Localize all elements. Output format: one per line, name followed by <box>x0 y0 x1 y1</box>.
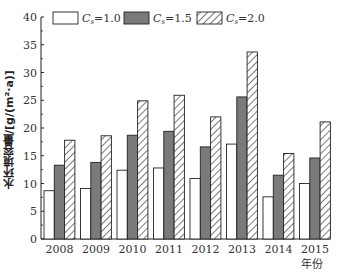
x-tick-label: 2014 <box>264 243 292 256</box>
y-tick-label: 10 <box>23 178 37 191</box>
bar-2014-1 <box>273 175 283 239</box>
bar-2011-0 <box>154 168 164 239</box>
x-tick-label: 2015 <box>301 243 329 256</box>
y-tick-label: 15 <box>23 150 37 163</box>
legend-label-1: Cs=1.5 <box>153 12 192 26</box>
bar-2012-0 <box>190 179 200 239</box>
legend-label-0: Cs=1.0 <box>82 12 121 26</box>
bars: 20082009201020112012201320142015年份 <box>44 52 330 271</box>
x-tick-label: 2011 <box>155 243 183 256</box>
bar-2011-2 <box>174 95 184 239</box>
legend-swatch-0 <box>53 12 78 24</box>
bar-2014-0 <box>263 197 273 239</box>
legend-label-2: Cs=2.0 <box>226 12 265 26</box>
bar-2010-0 <box>117 170 127 239</box>
x-axis-label: 年份 <box>301 257 323 271</box>
bar-2014-2 <box>284 154 294 239</box>
bar-2009-2 <box>101 136 111 239</box>
bar-2015-2 <box>320 122 330 239</box>
bar-2008-1 <box>54 165 64 239</box>
y-tick-label: 5 <box>30 205 37 218</box>
bar-2011-1 <box>164 131 174 239</box>
bar-2009-1 <box>91 162 101 239</box>
x-tick-label: 2013 <box>228 243 256 256</box>
legend-swatch-1 <box>124 12 149 24</box>
bar-2008-2 <box>65 140 75 239</box>
legend-swatch-2 <box>197 12 222 24</box>
y-tick-label: 25 <box>23 94 37 107</box>
y-tick-label: 35 <box>23 39 37 52</box>
bar-2009-0 <box>81 188 91 239</box>
y-tick-label: 30 <box>23 67 37 80</box>
y-tick-label: 40 <box>23 11 37 24</box>
bar-2010-1 <box>127 135 137 239</box>
bar-2010-2 <box>138 101 148 239</box>
bar-2013-0 <box>227 144 237 239</box>
bar-chart: 0510152025303540 20082009201020112012201… <box>0 0 343 280</box>
y-tick-label: 0 <box>30 233 37 246</box>
legend: Cs=1.0Cs=1.5Cs=2.0 <box>53 12 265 26</box>
x-tick-label: 2010 <box>118 243 146 256</box>
bar-2015-0 <box>300 184 310 240</box>
bar-2013-2 <box>247 52 257 239</box>
x-tick-label: 2008 <box>45 243 73 256</box>
bar-2015-1 <box>310 158 320 239</box>
bar-2012-2 <box>211 117 221 239</box>
x-tick-label: 2009 <box>82 243 110 256</box>
bar-2008-0 <box>44 191 54 239</box>
y-tick-label: 20 <box>23 122 37 135</box>
bar-2013-1 <box>237 97 247 239</box>
bar-2012-1 <box>200 147 210 239</box>
x-tick-label: 2012 <box>191 243 219 256</box>
